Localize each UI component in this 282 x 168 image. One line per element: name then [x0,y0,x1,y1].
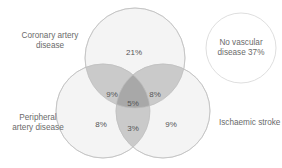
label-coronary-artery-disease: Coronary artery disease [14,31,86,51]
label-ischaemic-stroke: Ischaemic stroke [219,118,280,128]
region-all-three: 5% [127,99,139,109]
label-no-vascular-disease: No vascular disease 37% [204,38,278,58]
region-pad-only: 8% [95,120,107,130]
region-pad-stroke: 3% [127,124,139,134]
region-stroke-only: 9% [165,120,177,130]
label-peripheral-artery-disease: Peripheral artery disease [2,113,74,133]
venn-diagram [0,0,282,168]
region-cad-only: 21% [126,48,142,58]
region-cad-stroke: 8% [149,90,161,100]
region-cad-pad: 9% [106,90,118,100]
